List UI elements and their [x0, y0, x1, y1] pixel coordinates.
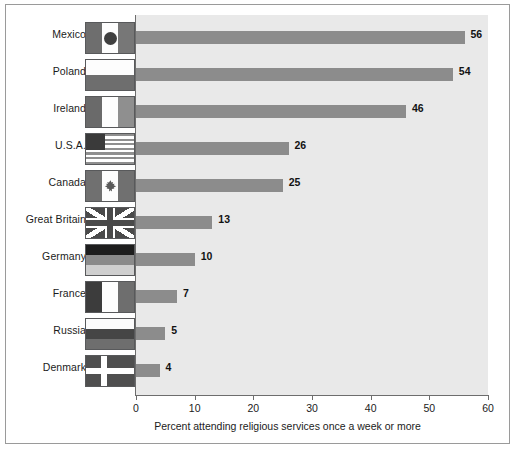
- flag-denmark: [85, 355, 135, 387]
- x-tick-label: 30: [297, 402, 327, 414]
- table-row: Mexico56: [6, 19, 511, 56]
- flag-great-britain: [85, 207, 135, 239]
- bar-value-label: 26: [295, 139, 307, 151]
- country-label: Germany: [0, 250, 86, 262]
- flag-cross-red: [86, 208, 134, 238]
- table-row: Ireland46: [6, 93, 511, 130]
- country-label: Great Britain: [0, 213, 86, 225]
- table-row: Germany10: [6, 241, 511, 278]
- bar: [136, 216, 212, 229]
- country-label: Poland: [0, 65, 86, 77]
- flag-poland: [85, 59, 135, 91]
- flag-stripes: [86, 97, 134, 127]
- table-row: U.S.A.26: [6, 130, 511, 167]
- maple-leaf-icon: [103, 178, 118, 195]
- bar-value-label: 10: [201, 250, 213, 262]
- country-label: U.S.A.: [0, 139, 86, 151]
- flag-germany: [85, 244, 135, 276]
- flag-russia: [85, 318, 135, 350]
- x-tick-mark: [195, 395, 196, 400]
- bar: [136, 253, 195, 266]
- flag-france: [85, 281, 135, 313]
- bar-value-label: 4: [166, 361, 172, 373]
- x-axis: 0102030405060 Percent attending religiou…: [6, 395, 511, 445]
- flag-cross-horizontal: [86, 368, 134, 374]
- x-tick-mark: [253, 395, 254, 400]
- bar: [136, 142, 289, 155]
- country-label: Mexico: [0, 28, 86, 40]
- flag-stripes: [86, 282, 134, 312]
- bar-rows: Mexico56Poland54Ireland46U.S.A.26Canada2…: [6, 5, 511, 400]
- bar-value-label: 25: [289, 176, 301, 188]
- x-tick-label: 20: [238, 402, 268, 414]
- bar: [136, 31, 465, 44]
- x-tick-label: 10: [180, 402, 210, 414]
- country-label: Canada: [0, 176, 86, 188]
- x-tick-mark: [312, 395, 313, 400]
- bar: [136, 68, 453, 81]
- flag-canada: [85, 170, 135, 202]
- x-tick-mark: [371, 395, 372, 400]
- table-row: Poland54: [6, 56, 511, 93]
- bar: [136, 105, 406, 118]
- flag-stripes: [86, 60, 134, 90]
- flag-mexico: [85, 22, 135, 54]
- x-tick-mark: [429, 395, 430, 400]
- table-row: Great Britain13: [6, 204, 511, 241]
- table-row: Denmark4: [6, 352, 511, 389]
- bar-value-label: 56: [471, 28, 483, 40]
- flag-canton: [86, 134, 105, 150]
- x-tick-label: 60: [473, 402, 503, 414]
- x-tick-label: 0: [121, 402, 151, 414]
- x-tick-label: 40: [356, 402, 386, 414]
- table-row: France7: [6, 278, 511, 315]
- bar-value-label: 7: [183, 287, 189, 299]
- x-tick-label: 50: [414, 402, 444, 414]
- flag-usa: [85, 133, 135, 165]
- country-label: Ireland: [0, 102, 86, 114]
- bar: [136, 364, 160, 377]
- x-tick-mark: [136, 395, 137, 400]
- bar: [136, 327, 165, 340]
- chart-figure: Mexico56Poland54Ireland46U.S.A.26Canada2…: [5, 4, 510, 444]
- x-tick-mark: [488, 395, 489, 400]
- bar-value-label: 13: [218, 213, 230, 225]
- bar-value-label: 54: [459, 65, 471, 77]
- flag-stripes: [86, 319, 134, 349]
- bar: [136, 290, 177, 303]
- flag-stripes: [86, 245, 134, 275]
- country-label: Denmark: [0, 361, 86, 373]
- x-axis-title: Percent attending religious services onc…: [6, 420, 511, 432]
- mexico-emblem-icon: [104, 32, 117, 45]
- bar-value-label: 46: [412, 102, 424, 114]
- table-row: Russia5: [6, 315, 511, 352]
- bar: [136, 179, 283, 192]
- flag-ireland: [85, 96, 135, 128]
- table-row: Canada25: [6, 167, 511, 204]
- country-label: France: [0, 287, 86, 299]
- country-label: Russia: [0, 324, 86, 336]
- bar-value-label: 5: [171, 324, 177, 336]
